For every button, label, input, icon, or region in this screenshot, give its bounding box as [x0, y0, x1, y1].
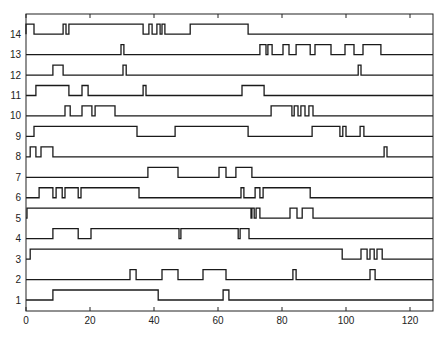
- trace-channel-2: [26, 270, 433, 280]
- trace-channel-7: [26, 167, 433, 177]
- trace-channel-9: [26, 126, 433, 136]
- y-tick-label: 3: [15, 254, 21, 265]
- raster-chart: 020406080100120 1234567891011121314: [0, 0, 446, 338]
- trace-channel-1: [26, 290, 433, 300]
- trace-channel-11: [26, 86, 433, 96]
- x-tick-label: 0: [23, 315, 29, 326]
- y-tick-label: 1: [15, 295, 21, 306]
- x-tick-label: 20: [84, 315, 96, 326]
- y-tick-label: 12: [10, 70, 22, 81]
- y-tick-label: 6: [15, 192, 21, 203]
- trace-channel-6: [26, 188, 433, 198]
- trace-channel-14: [26, 24, 433, 34]
- traces: [26, 24, 433, 300]
- trace-channel-8: [26, 147, 433, 157]
- y-tick-label: 14: [10, 29, 22, 40]
- y-tick-label: 10: [10, 110, 22, 121]
- y-tick-label: 9: [15, 131, 21, 142]
- y-tick-label: 8: [15, 151, 21, 162]
- y-tick-label: 2: [15, 274, 21, 285]
- trace-channel-4: [26, 229, 433, 239]
- y-tick-label: 5: [15, 213, 21, 224]
- y-tick-label: 4: [15, 233, 21, 244]
- trace-channel-3: [26, 249, 433, 259]
- x-tick-label: 60: [212, 315, 224, 326]
- x-tick-label: 120: [402, 315, 419, 326]
- y-tick-label: 11: [11, 90, 22, 101]
- plot-frame: [26, 14, 433, 311]
- trace-channel-12: [26, 65, 433, 75]
- x-tick-label: 80: [276, 315, 288, 326]
- y-tick-label: 7: [15, 172, 21, 183]
- x-tick-label: 100: [338, 315, 355, 326]
- y-tick-label: 13: [10, 49, 22, 60]
- x-tick-label: 40: [148, 315, 160, 326]
- trace-channel-13: [26, 45, 433, 55]
- trace-channel-10: [26, 106, 433, 116]
- trace-channel-5: [26, 208, 433, 218]
- y-axis: 1234567891011121314: [10, 29, 22, 306]
